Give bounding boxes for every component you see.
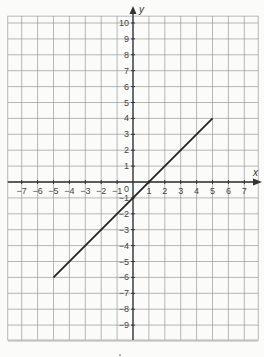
y-tick-label: −7	[119, 288, 129, 298]
x-tick-label: 5	[210, 186, 215, 196]
x-axis-label: x	[252, 167, 259, 178]
y-tick-label: 5	[124, 98, 129, 108]
x-tick-label: 3	[178, 186, 183, 196]
x-tick-label: −3	[80, 186, 90, 196]
x-tick-label: 4	[194, 186, 199, 196]
x-tick-label: −2	[96, 186, 106, 196]
y-tick-label: −3	[119, 225, 129, 235]
y-tick-label: −1	[119, 193, 129, 203]
coordinate-grid: −7−6−5−4−3−2−1123456710987654321−1−2−3−4…	[0, 0, 264, 357]
x-tick-label: 7	[242, 186, 247, 196]
x-tick-label: −5	[48, 186, 58, 196]
y-tick-label: 6	[124, 82, 129, 92]
y-tick-label: −5	[119, 257, 129, 267]
x-axis-arrow-icon	[253, 179, 262, 186]
y-axis-arrow-icon	[130, 6, 137, 14]
y-tick-label: −8	[119, 304, 129, 314]
axes	[8, 6, 262, 340]
y-tick-label: 3	[124, 129, 129, 139]
y-tick-label: 4	[124, 113, 129, 123]
y-tick-label: 10	[119, 18, 129, 28]
y-tick-label: 8	[124, 50, 129, 60]
x-tick-label: −6	[32, 186, 42, 196]
origin-label: 0	[124, 184, 129, 194]
y-tick-label: 7	[124, 66, 129, 76]
y-tick-label: −4	[119, 241, 129, 251]
x-tick-label: 6	[226, 186, 231, 196]
y-tick-label: 2	[124, 145, 129, 155]
y-tick-label: 9	[124, 34, 129, 44]
x-tick-label: 1	[146, 186, 151, 196]
x-tick-label: 2	[162, 186, 167, 196]
y-tick-label: 1	[124, 161, 129, 171]
y-tick-label: −6	[119, 272, 129, 282]
x-tick-label: −4	[64, 186, 74, 196]
y-tick-label: −9	[119, 320, 129, 330]
x-tick-label: −7	[17, 186, 27, 196]
y-axis-label: y	[138, 4, 145, 15]
stray-dot	[119, 354, 121, 356]
